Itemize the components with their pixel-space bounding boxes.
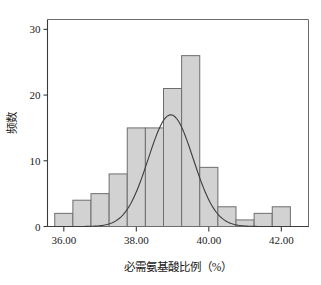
histogram-figure: 0102030 36.0038.0040.0042.00 必需氨基酸比例（%） … (0, 0, 321, 285)
histogram-bar (254, 213, 272, 226)
x-tick-label: 42.00 (269, 234, 294, 246)
y-tick-label: 10 (30, 155, 42, 167)
x-tick-label: 40.00 (196, 234, 221, 246)
x-tick-label: 38.00 (124, 234, 149, 246)
y-tick-label: 0 (35, 221, 41, 233)
histogram-bar (91, 194, 109, 227)
y-tick-label: 30 (30, 23, 42, 35)
histogram-bar (127, 128, 145, 227)
x-tick-label: 36.00 (51, 234, 76, 246)
histogram-bar (200, 167, 218, 226)
x-axis-title: 必需氨基酸比例（%） (124, 260, 233, 273)
chart-canvas: 0102030 36.0038.0040.0042.00 必需氨基酸比例（%） … (0, 0, 321, 285)
y-tick-label: 20 (30, 89, 42, 101)
histogram-bar (272, 207, 290, 227)
histogram-bar (164, 89, 182, 227)
histogram-bar (145, 128, 163, 227)
histogram-bar (73, 200, 91, 226)
histogram-bar (55, 213, 73, 226)
histogram-bar (182, 56, 200, 227)
y-axis-title: 频数 (5, 111, 18, 134)
